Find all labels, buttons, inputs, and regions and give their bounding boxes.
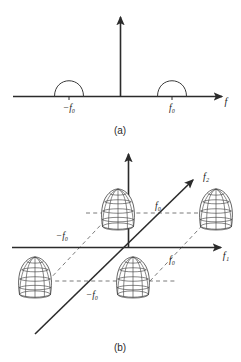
panel-b-lobe-upper-right [200, 189, 233, 230]
panel-b-axis-x-label: f₁ [223, 250, 229, 261]
panel-a-positive-lobe [158, 81, 187, 97]
panel-a-negative-lobe [55, 81, 84, 97]
panel-a: −f₀ f₀ f (a) [13, 17, 229, 136]
panel-b-lobe-upper-left [102, 189, 135, 230]
panel-a-caption: (a) [114, 125, 126, 136]
panel-b-label-y-negative-f0: −f₀ [86, 290, 98, 300]
panel-b-lobe-lower-left [19, 257, 52, 298]
panel-b-label-x-positive-f0: f₀ [169, 255, 175, 265]
panel-b-label-y-positive-f0: f₀ [155, 201, 161, 211]
panel-b-axis-y-label: f₂ [203, 171, 210, 182]
panel-b-caption: (b) [114, 342, 126, 353]
panel-b-lobe-lower-right [117, 257, 150, 298]
figure-svg: −f₀ f₀ f (a) [0, 0, 241, 362]
panel-b: f₂ f₁ −f₀ f₀ f₀ −f₀ (b) [12, 154, 232, 353]
panel-a-label-positive-f0: f₀ [169, 103, 175, 113]
panel-a-label-negative-f0: −f₀ [63, 103, 75, 113]
panel-b-label-x-negative-f0: −f₀ [56, 231, 68, 241]
panel-a-axis-x-label: f [225, 96, 229, 107]
figure-container: −f₀ f₀ f (a) [0, 0, 241, 362]
